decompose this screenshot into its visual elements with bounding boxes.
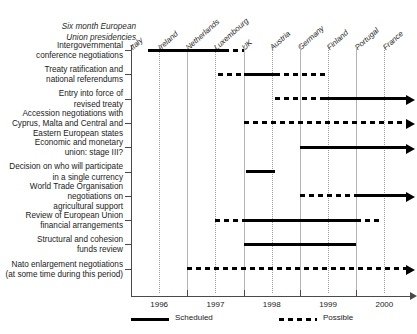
task-axis-tick xyxy=(125,220,131,221)
task-label-line: (at some time during this period) xyxy=(0,270,123,280)
task-bar-arrow-icon xyxy=(406,119,415,129)
task-label-line: national referendums xyxy=(0,75,123,85)
task-bar-arrow-icon xyxy=(406,192,415,202)
year-tick xyxy=(131,290,132,297)
task-axis-tick xyxy=(125,74,131,75)
task-label-line: Structural and cohesion xyxy=(0,235,123,245)
year-tick xyxy=(187,290,188,297)
year-tick xyxy=(356,290,357,297)
task-label-line: World Trade Organisation xyxy=(0,182,123,192)
presidency-gridline xyxy=(384,45,386,293)
task-label-column: Intergovernmentalconference negotiations… xyxy=(0,0,131,300)
task-label: Intergovernmentalconference negotiations xyxy=(0,41,123,61)
task-label: World Trade Organisationnegotiations ona… xyxy=(0,182,123,213)
task-label: Treaty ratification andnational referend… xyxy=(0,65,123,85)
task-bar-segment-dashed xyxy=(300,194,356,197)
task-bar-segment-solid xyxy=(244,219,357,222)
legend-swatch-dashed xyxy=(279,318,317,321)
task-axis-tick xyxy=(125,50,131,51)
gantt-chart: Six month European Union presidencies It… xyxy=(0,0,417,334)
task-label-line: funds review xyxy=(0,245,123,255)
task-bar-segment-solid xyxy=(300,146,407,149)
presidency-gridline xyxy=(272,45,274,293)
plot-area xyxy=(131,45,417,293)
task-label-line: Decision on who will participate xyxy=(0,162,123,172)
presidency-gridline xyxy=(215,45,217,293)
task-label: Entry into force ofrevised treaty xyxy=(0,89,123,109)
task-label-line: conference negotiations xyxy=(0,51,123,61)
task-axis-tick xyxy=(125,269,131,270)
task-bar-segment-solid xyxy=(246,170,274,173)
task-label-line: Treaty ratification and xyxy=(0,65,123,75)
task-label: Accession negotiations withCyprus, Malta… xyxy=(0,109,123,140)
task-axis-tick xyxy=(125,196,131,197)
year-boundary-line xyxy=(187,45,188,293)
task-label-line: financial arrangements xyxy=(0,221,123,231)
task-bar-segment-solid xyxy=(244,243,357,246)
year-tick-label: 1997 xyxy=(207,300,225,309)
task-label-line: negotiations on xyxy=(0,192,123,202)
task-label-line: Entry into force of xyxy=(0,89,123,99)
task-label: Decision on who will participatein a sin… xyxy=(0,162,123,182)
chart-legend: ScheduledPossible xyxy=(131,312,417,328)
task-bar-segment-solid xyxy=(325,97,407,100)
task-bar-segment-dashed xyxy=(356,219,379,222)
task-bar-segment-dashed xyxy=(224,49,244,52)
task-bar-segment-solid xyxy=(356,194,407,197)
presidency-gridline xyxy=(159,45,161,293)
task-label-line: Intergovernmental xyxy=(0,41,123,51)
presidency-gridline xyxy=(328,45,330,293)
task-bar-segment-dashed xyxy=(275,73,326,76)
year-boundary-line xyxy=(244,45,245,293)
task-axis-tick xyxy=(125,99,131,100)
task-bar-segment-dashed xyxy=(275,97,326,100)
task-label-line: union: stage III? xyxy=(0,148,123,158)
legend-label: Scheduled xyxy=(175,313,213,322)
task-bar-segment-dashed xyxy=(187,267,407,270)
year-tick-label: 1996 xyxy=(150,300,168,309)
task-label-line: Nato enlargement negotiations xyxy=(0,260,123,270)
task-bar-segment-dashed xyxy=(218,73,243,76)
task-label: Structural and cohesionfunds review xyxy=(0,235,123,255)
task-axis-tick xyxy=(125,244,131,245)
task-axis-tick xyxy=(125,123,131,124)
task-label: Economic and monetaryunion: stage III? xyxy=(0,138,123,158)
legend-swatch-solid xyxy=(131,318,169,321)
task-label-line: Cyprus, Malta and Central and xyxy=(0,119,123,129)
task-label-line: Economic and monetary xyxy=(0,138,123,148)
legend-label: Possible xyxy=(323,313,353,322)
task-bar-segment-solid xyxy=(148,49,224,52)
time-axis xyxy=(131,296,412,297)
task-axis-tick xyxy=(125,147,131,148)
task-bar-arrow-icon xyxy=(406,144,415,154)
task-label: Nato enlargement negotiations(at some ti… xyxy=(0,260,123,280)
vertical-axis xyxy=(131,45,132,296)
time-axis-arrow-icon xyxy=(410,292,417,300)
year-tick xyxy=(244,290,245,297)
task-bar-segment-dashed xyxy=(244,121,407,124)
task-bar-segment-solid xyxy=(244,73,275,76)
year-tick xyxy=(300,290,301,297)
task-bar-segment-dashed xyxy=(215,219,243,222)
year-boundary-line xyxy=(356,45,357,293)
year-boundary-line xyxy=(300,45,301,293)
year-tick-label: 1998 xyxy=(263,300,281,309)
task-label: Review of European Unionfinancial arrang… xyxy=(0,211,123,231)
task-bar-arrow-icon xyxy=(406,95,415,105)
task-bar-arrow-icon xyxy=(406,265,415,275)
year-tick-label: 1999 xyxy=(319,300,337,309)
task-axis-tick xyxy=(125,172,131,173)
year-tick-label: 2000 xyxy=(375,300,393,309)
task-label-line: Review of European Union xyxy=(0,211,123,221)
task-label-line: Accession negotiations with xyxy=(0,109,123,119)
